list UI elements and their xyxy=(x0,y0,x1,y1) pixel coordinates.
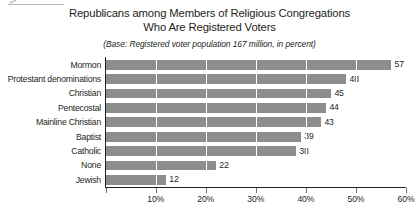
gridline xyxy=(156,57,157,187)
x-tick xyxy=(306,188,307,193)
x-tick-label: 30% xyxy=(247,194,264,204)
bar-track xyxy=(106,74,346,84)
chart-figure: Republicans among Members of Religious C… xyxy=(0,0,419,222)
category-label: Mainline Christian xyxy=(0,115,101,129)
category-label: Jewish xyxy=(0,173,101,187)
category-label: Christian xyxy=(0,86,101,100)
gridline xyxy=(306,57,307,187)
x-tick-label: 40% xyxy=(297,194,314,204)
category-label: Baptist xyxy=(0,130,101,144)
bar-track xyxy=(106,146,296,156)
gridline xyxy=(206,57,207,187)
category-label: None xyxy=(0,158,101,172)
x-tick xyxy=(206,188,207,193)
bar xyxy=(106,161,216,171)
x-tick xyxy=(406,188,407,193)
x-tick-label: 50% xyxy=(347,194,364,204)
bar-value-label: 22 xyxy=(219,159,228,172)
category-label: Protestant denominations xyxy=(0,72,101,86)
category-label: Pentecostal xyxy=(0,101,101,115)
bar-value-label: 38 xyxy=(299,145,308,158)
bar-value-label: 44 xyxy=(329,101,338,114)
gridline xyxy=(406,57,407,187)
x-tick xyxy=(256,188,257,193)
chart-title-block: Republicans among Members of Religious C… xyxy=(0,6,419,50)
bar xyxy=(106,60,391,70)
x-tick-label: 60% xyxy=(398,194,415,204)
bar-value-label: 48 xyxy=(349,73,358,86)
x-tick xyxy=(156,188,157,193)
chart-title-line-1: Republicans among Members of Religious C… xyxy=(0,6,419,20)
bar xyxy=(106,89,331,99)
category-label: Mormon xyxy=(0,58,101,72)
bar-track xyxy=(106,89,331,99)
bar xyxy=(106,103,326,113)
bar-track xyxy=(106,103,326,113)
chart-plot-area: Mormon57Protestant denominations48Christ… xyxy=(0,57,419,190)
category-label: Catholic xyxy=(0,144,101,158)
bar xyxy=(106,117,321,127)
bar-value-label: 57 xyxy=(394,58,403,71)
x-tick-label: 10% xyxy=(147,194,164,204)
bar xyxy=(106,132,301,142)
bar-track xyxy=(106,175,166,185)
bar-value-label: 45 xyxy=(334,87,343,100)
bar-value-label: 43 xyxy=(324,116,333,129)
bar xyxy=(106,146,296,156)
bar xyxy=(106,74,346,84)
bar xyxy=(106,175,166,185)
bar-track xyxy=(106,117,321,127)
bar-track xyxy=(106,161,216,171)
bar-track xyxy=(106,60,391,70)
bar-track xyxy=(106,132,301,142)
x-tick-label: 20% xyxy=(197,194,214,204)
gridline xyxy=(256,57,257,187)
x-tick xyxy=(106,188,107,193)
x-tick xyxy=(356,188,357,193)
y-axis-line xyxy=(105,57,106,188)
chart-subtitle: (Base: Registered voter population 167 m… xyxy=(0,39,419,50)
gridline xyxy=(356,57,357,187)
bar-value-label: 12 xyxy=(169,173,178,186)
chart-title-line-2: Who Are Registered Voters xyxy=(0,20,419,34)
